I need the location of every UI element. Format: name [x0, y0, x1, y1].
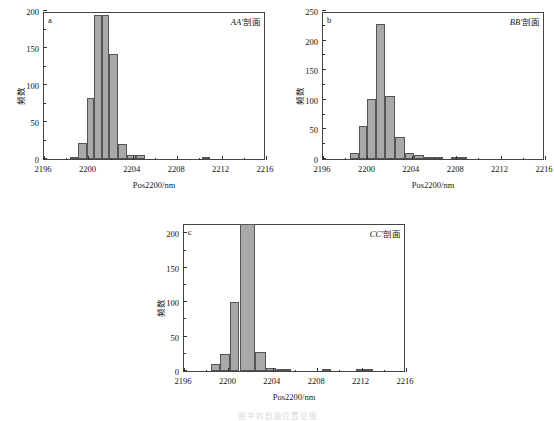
x-axis-tick-label: 2212	[491, 164, 508, 174]
x-axis-minor-tick	[295, 370, 296, 373]
y-axis-tick-label: 0	[298, 155, 318, 165]
panel-title-c: CC′剖面	[370, 227, 401, 239]
x-axis-tick-label: 2196	[314, 164, 331, 174]
y-axis-tick-label: 100	[298, 96, 318, 106]
histogram-bar	[202, 157, 211, 159]
x-axis-tick	[133, 156, 134, 160]
histogram-bar	[255, 352, 266, 371]
histogram-bar	[136, 155, 145, 159]
histogram-bar	[70, 157, 79, 159]
plot-area-b	[322, 12, 544, 160]
y-axis-tick	[183, 336, 187, 337]
panel-title-c-rest: 剖面	[383, 229, 401, 239]
y-axis-minor-tick	[183, 250, 186, 251]
panel-title-b-rest: 剖面	[522, 17, 540, 27]
panel-title-a-italic: AA′	[231, 17, 243, 27]
x-axis-minor-tick	[384, 370, 385, 373]
y-axis-tick-label: 200	[19, 7, 39, 17]
y-axis-tick-label: 50	[19, 118, 39, 128]
x-axis-minor-tick	[66, 158, 67, 161]
x-axis-minor-tick	[339, 370, 340, 373]
panel-title-a-rest: 剖面	[243, 17, 261, 27]
histogram-bar	[109, 54, 118, 159]
panel-b: b BB′剖面 Pos2200/nm 频数 219622002204220822…	[279, 0, 554, 200]
x-axis-tick-label: 2208	[447, 164, 464, 174]
x-axis-tick-label: 2212	[212, 164, 229, 174]
x-axis-minor-tick	[478, 158, 479, 161]
panel-title-a: AA′剖面	[231, 15, 261, 27]
y-axis-tick-label: 100	[159, 298, 179, 308]
plot-area-a	[43, 12, 265, 160]
histogram-bars-c	[184, 225, 404, 371]
x-axis-tick-label: 2196	[35, 164, 52, 174]
x-axis-minor-tick	[523, 158, 524, 161]
histogram-bars-b	[323, 13, 543, 159]
panel-letter-c: c	[188, 227, 192, 237]
x-axis-tick	[273, 368, 274, 372]
x-axis-tick-label: 2196	[175, 376, 192, 386]
histogram-bar	[127, 155, 136, 159]
x-axis-minor-tick	[244, 158, 245, 161]
y-axis-minor-tick	[43, 29, 46, 30]
histogram-bar	[102, 15, 110, 159]
x-axis-tick	[367, 156, 368, 160]
y-axis-minor-tick	[183, 284, 186, 285]
y-axis-tick	[183, 267, 187, 268]
y-axis-minor-tick	[322, 84, 325, 85]
histogram-bar	[350, 153, 359, 159]
x-axis-tick	[501, 156, 502, 160]
panel-title-c-italic: CC′	[370, 229, 383, 239]
panel-a: a AA′剖面 Pos2200/nm 频数 219622002204220822…	[0, 0, 275, 200]
y-axis-tick-label: 200	[159, 229, 179, 239]
y-axis-tick	[43, 10, 47, 11]
y-axis-minor-tick	[322, 25, 325, 26]
x-axis-tick-label: 2200	[358, 164, 375, 174]
x-axis-minor-tick	[206, 370, 207, 373]
y-axis-tick	[322, 40, 326, 41]
axis-title-x-a: Pos2200/nm	[133, 180, 176, 190]
x-axis-minor-tick	[251, 370, 252, 373]
histogram-bar	[240, 224, 256, 371]
x-axis-tick	[88, 156, 89, 160]
y-axis-tick	[322, 99, 326, 100]
panel-c: c CC′剖面 Pos2200/nm 频数 219622002204220822…	[140, 212, 415, 412]
axis-title-x-b: Pos2200/nm	[412, 180, 455, 190]
histogram-bar	[211, 364, 220, 371]
y-axis-tick	[322, 69, 326, 70]
histogram-bar	[230, 302, 240, 371]
x-axis-tick-label: 2208	[308, 376, 325, 386]
x-axis-tick	[362, 368, 363, 372]
x-axis-tick-label: 2216	[397, 376, 414, 386]
y-axis-minor-tick	[183, 353, 186, 354]
figure-caption: 图 中 的 剖 面 位 置 见 图	[0, 410, 554, 421]
panel-title-b-italic: BB′	[510, 17, 522, 27]
histogram-bar	[385, 96, 395, 159]
y-axis-minor-tick	[322, 114, 325, 115]
x-axis-minor-tick	[199, 158, 200, 161]
histogram-bar	[376, 24, 385, 159]
y-axis-tick-label: 50	[298, 125, 318, 135]
axis-title-x-c: Pos2200/nm	[273, 392, 316, 402]
y-axis-tick	[43, 84, 47, 85]
y-axis-tick	[43, 158, 47, 159]
y-axis-tick	[43, 121, 47, 122]
histogram-bar	[451, 157, 460, 159]
histogram-bar	[276, 369, 290, 371]
histogram-bar	[118, 144, 127, 159]
histogram-bar	[460, 157, 468, 159]
histogram-bar	[87, 98, 94, 159]
y-axis-minor-tick	[183, 318, 186, 319]
histogram-bar	[356, 369, 373, 371]
x-axis-tick-label: 2204	[402, 164, 419, 174]
y-axis-tick	[43, 47, 47, 48]
plot-area-c	[183, 224, 405, 372]
histogram-bar	[359, 126, 368, 159]
x-axis-tick	[228, 368, 229, 372]
x-axis-tick-label: 2216	[536, 164, 553, 174]
histogram-bar	[94, 15, 102, 159]
histogram-bar	[367, 99, 376, 159]
x-axis-tick-label: 2200	[79, 164, 96, 174]
y-axis-minor-tick	[322, 143, 325, 144]
x-axis-tick-label: 2200	[219, 376, 236, 386]
y-axis-tick-label: 250	[298, 7, 318, 17]
